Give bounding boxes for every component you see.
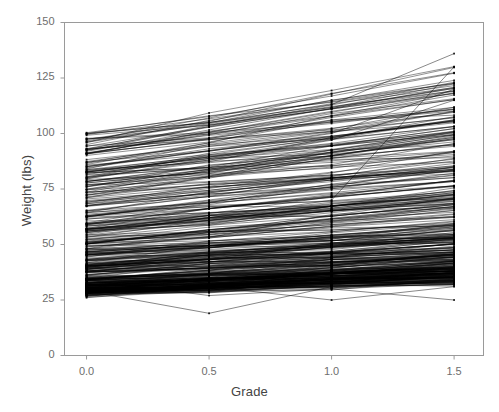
data-point-marker — [208, 222, 210, 224]
data-point-marker — [86, 263, 88, 265]
data-point-marker — [453, 249, 455, 251]
data-point-marker — [453, 166, 455, 168]
data-point-marker — [453, 98, 455, 100]
data-point-marker — [453, 116, 455, 118]
data-point-marker — [331, 249, 333, 251]
data-point-marker — [86, 180, 88, 182]
data-point-marker — [331, 149, 333, 151]
data-point-marker — [453, 234, 455, 236]
data-point-marker — [208, 283, 210, 285]
data-point-marker — [331, 240, 333, 242]
data-point-marker — [453, 132, 455, 134]
data-point-marker — [453, 157, 455, 159]
data-point-marker — [86, 243, 88, 245]
data-point-marker — [453, 262, 455, 264]
data-point-marker — [453, 143, 455, 145]
data-point-marker — [86, 168, 88, 170]
data-point-marker — [86, 198, 88, 200]
data-point-marker — [208, 164, 210, 166]
data-point-marker — [86, 250, 88, 252]
data-point-marker — [208, 253, 210, 255]
data-point-marker — [86, 159, 88, 161]
data-point-marker — [453, 251, 455, 253]
data-point-marker — [453, 280, 455, 282]
y-tick-label: 100 — [15, 126, 55, 138]
data-point-marker — [86, 174, 88, 176]
data-point-marker — [453, 109, 455, 111]
data-point-marker — [208, 145, 210, 147]
data-point-marker — [331, 127, 333, 129]
data-point-marker — [331, 273, 333, 275]
data-point-marker — [453, 90, 455, 92]
data-point-marker — [86, 188, 88, 190]
data-point-marker — [86, 225, 88, 227]
data-point-marker — [453, 285, 455, 287]
data-point-marker — [208, 226, 210, 228]
data-point-marker — [208, 183, 210, 185]
data-point-marker — [86, 191, 88, 193]
data-point-marker — [453, 260, 455, 262]
data-point-marker — [453, 168, 455, 170]
data-point-marker — [453, 229, 455, 231]
data-point-marker — [86, 152, 88, 154]
data-point-marker — [208, 202, 210, 204]
data-point-marker — [86, 291, 88, 293]
data-point-marker — [453, 130, 455, 132]
data-point-marker — [208, 215, 210, 217]
data-point-marker — [208, 141, 210, 143]
data-point-marker — [86, 271, 88, 273]
data-point-marker — [86, 284, 88, 286]
data-point-marker — [208, 270, 210, 272]
data-point-marker — [331, 256, 333, 258]
data-point-marker — [208, 232, 210, 234]
data-point-marker — [208, 259, 210, 261]
data-point-marker — [86, 229, 88, 231]
data-point-marker — [453, 87, 455, 89]
data-point-marker — [86, 288, 88, 290]
data-point-marker — [86, 233, 88, 235]
data-point-marker — [331, 165, 333, 167]
data-point-marker — [86, 141, 88, 143]
x-tick-label: 1.0 — [312, 365, 352, 377]
x-tick-label: 0.5 — [189, 365, 229, 377]
data-point-marker — [331, 119, 333, 121]
data-point-marker — [453, 201, 455, 203]
data-point-marker — [208, 120, 210, 122]
data-point-marker — [331, 155, 333, 157]
x-tick-label: 1.5 — [434, 365, 474, 377]
profile-plot-canvas — [0, 0, 499, 412]
data-point-marker — [208, 122, 210, 124]
data-point-marker — [86, 171, 88, 173]
data-point-marker — [208, 217, 210, 219]
data-point-marker — [453, 106, 455, 108]
data-point-marker — [331, 99, 333, 101]
data-point-marker — [86, 236, 88, 238]
data-point-marker — [331, 101, 333, 103]
data-point-marker — [208, 117, 210, 119]
data-point-marker — [453, 246, 455, 248]
data-point-marker — [453, 111, 455, 113]
data-point-marker — [86, 186, 88, 188]
data-point-marker — [208, 204, 210, 206]
data-point-marker — [86, 274, 88, 276]
y-tick-label: 0 — [15, 348, 55, 360]
data-point-marker — [453, 274, 455, 276]
data-point-marker — [331, 176, 333, 178]
data-point-marker — [453, 203, 455, 205]
data-point-marker — [331, 285, 333, 287]
data-point-marker — [453, 211, 455, 213]
data-point-marker — [453, 282, 455, 284]
data-point-marker — [453, 190, 455, 192]
data-point-marker — [208, 130, 210, 132]
data-point-marker — [208, 156, 210, 158]
data-point-marker — [331, 299, 333, 301]
data-point-marker — [86, 253, 88, 255]
data-point-marker — [86, 177, 88, 179]
data-point-marker — [453, 126, 455, 128]
data-point-marker — [331, 261, 333, 263]
data-point-marker — [208, 169, 210, 171]
data-point-marker — [208, 196, 210, 198]
data-point-marker — [453, 161, 455, 163]
y-tick-label: 75 — [15, 181, 55, 193]
x-axis-title: Grade — [0, 384, 499, 399]
